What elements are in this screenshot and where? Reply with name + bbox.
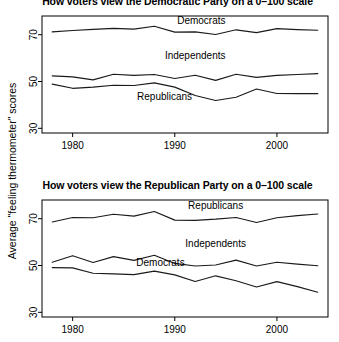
y-tick-label: 70 [29, 29, 40, 41]
series-label-independents: Independents [165, 50, 226, 61]
x-tick-label: 1990 [164, 140, 187, 151]
chart-panel-democratic-party: How voters view the Democratic Party on … [0, 0, 339, 171]
series-label-republicans: Republicans [137, 91, 192, 102]
series-line-independents [52, 74, 318, 81]
series-label-republicans: Republicans [188, 200, 243, 211]
y-tick-label: 30 [29, 306, 40, 318]
y-tick-label: 30 [29, 122, 40, 134]
series-line-democrats [52, 268, 318, 293]
y-tick-label: 50 [29, 76, 40, 88]
x-tick-label: 1980 [62, 140, 85, 151]
chart-panel-republican-party: How voters view the Republican Party on … [0, 171, 339, 342]
x-tick-label: 2000 [266, 324, 289, 335]
series-label-democrats: Democrats [177, 15, 225, 26]
x-tick-label: 1980 [62, 324, 85, 335]
x-tick-label: 1990 [164, 324, 187, 335]
series-label-democrats: Democrats [136, 257, 184, 268]
plot-area-bottom: 305070198019902000RepublicansIndependent… [0, 171, 339, 342]
plot-area-top: 305070198019902000DemocratsIndependentsR… [0, 0, 339, 171]
series-label-independents: Independents [185, 238, 246, 249]
series-line-independents [52, 255, 318, 266]
y-tick-label: 70 [29, 213, 40, 225]
x-tick-label: 2000 [266, 140, 289, 151]
series-line-republicans [52, 211, 318, 222]
series-line-democrats [52, 26, 318, 34]
y-tick-label: 50 [29, 260, 40, 272]
